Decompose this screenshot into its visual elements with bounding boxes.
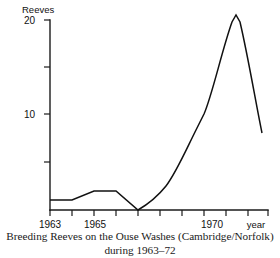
line-chart-plot: Reeves 20 10 1963 1965 1970 year [0,0,280,232]
y-tick-label-10: 10 [24,109,36,120]
x-tick-label-1970: 1970 [201,219,224,230]
x-tick-label-1965: 1965 [84,219,107,230]
caption-line-2: during 1963–72 [0,244,280,258]
figure-caption: Breeding Reeves on the Ouse Washes (Camb… [0,230,280,257]
y-tick-label-20: 20 [24,15,36,26]
x-tick-label-1963: 1963 [39,219,62,230]
caption-line-1: Breeding Reeves on the Ouse Washes (Camb… [0,230,280,244]
x-axis-title: year [247,219,265,230]
chart-figure: Reeves 20 10 1963 1965 1970 year Breedin… [0,0,280,258]
reeves-series-line [50,15,262,210]
y-axis-title: Reeves [22,4,54,15]
